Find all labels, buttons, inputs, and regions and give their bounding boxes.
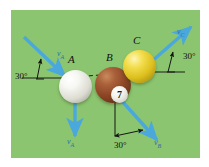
- vector-label-vB-outgoing: vB: [154, 139, 161, 149]
- figure-root: 7 A B C 30° 30° 30° vA vA vB vC: [0, 0, 209, 167]
- ball-label-c: C: [133, 35, 140, 46]
- numbered-ball-7: 7: [111, 86, 128, 103]
- vector-label-vA-outgoing: vA: [67, 138, 74, 148]
- vector-label-subscript: C: [181, 32, 185, 38]
- ball-c: [123, 50, 156, 83]
- numbered-ball-label: 7: [117, 90, 122, 100]
- angle-label-bottom: 30°: [114, 141, 127, 150]
- angle-marker-right: [167, 52, 175, 72]
- vector-label-subscript: A: [61, 54, 65, 60]
- ball-label-b: B: [106, 52, 113, 63]
- angle-label-right: 30°: [183, 52, 196, 61]
- vector-label-subscript: A: [71, 142, 75, 148]
- vector-label-vA-incoming: vA: [57, 50, 64, 60]
- angle-label-left: 30°: [15, 72, 28, 81]
- diagram-panel: 7 A B C 30° 30° 30° vA vA vB vC: [11, 10, 200, 158]
- angle-marker-bottom: [115, 130, 143, 136]
- ball-label-a: A: [68, 54, 75, 65]
- angle-marker-left: [36, 59, 44, 79]
- vector-label-subscript: B: [158, 143, 162, 149]
- ball-a: [59, 70, 92, 103]
- vector-label-vC-outgoing: vC: [177, 28, 185, 38]
